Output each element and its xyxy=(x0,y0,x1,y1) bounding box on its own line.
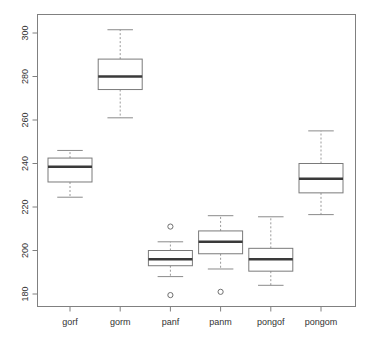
y-tick-label: 180 xyxy=(20,286,30,301)
box-panf xyxy=(148,224,192,298)
box-rect-gorf xyxy=(48,158,92,182)
boxplot-figure: 180200220240260280300 gorfgormpanfpanmpo… xyxy=(0,0,367,341)
box-gorf xyxy=(48,150,92,197)
y-tick-label: 240 xyxy=(20,156,30,171)
y-tick-label: 220 xyxy=(20,199,30,214)
box-gorm xyxy=(98,30,142,118)
x-tick-label-panm: panm xyxy=(209,317,232,327)
outlier-panf-1 xyxy=(168,292,173,297)
y-tick-label: 260 xyxy=(20,112,30,127)
outlier-panm-0 xyxy=(218,289,223,294)
box-rect-gorm xyxy=(98,59,142,89)
y-tick-label: 280 xyxy=(20,69,30,84)
boxplot-canvas: 180200220240260280300 gorfgormpanfpanmpo… xyxy=(0,0,367,341)
outlier-panf-0 xyxy=(168,224,173,229)
y-axis: 180200220240260280300 xyxy=(20,25,38,301)
x-tick-label-gorf: gorf xyxy=(62,317,78,327)
y-tick-label: 300 xyxy=(20,25,30,40)
box-panm xyxy=(199,216,243,295)
x-tick-label-pongof: pongof xyxy=(257,317,285,327)
x-axis: gorfgormpanfpanmpongofpongom xyxy=(62,307,337,327)
box-pongof xyxy=(249,217,293,286)
x-tick-label-gorm: gorm xyxy=(110,317,131,327)
x-tick-label-pongom: pongom xyxy=(305,317,338,327)
box-pongom xyxy=(299,131,343,215)
y-tick-label: 200 xyxy=(20,243,30,258)
box-series xyxy=(48,30,343,298)
x-tick-label-panf: panf xyxy=(162,317,180,327)
